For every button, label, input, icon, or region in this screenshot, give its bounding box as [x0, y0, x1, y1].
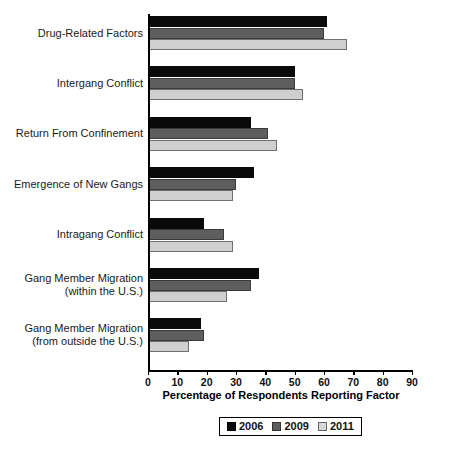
bar-chart: Drug-Related FactorsIntergang ConflictRe…	[0, 0, 458, 454]
category-label-line: Return From Confinement	[0, 127, 143, 140]
x-tick	[412, 370, 413, 375]
bar-2009	[148, 28, 324, 39]
x-tick-label: 70	[341, 376, 365, 388]
bar-2006	[148, 167, 254, 178]
x-tick-label: 60	[312, 376, 336, 388]
bar-2011	[148, 341, 189, 352]
x-tick-label: 90	[400, 376, 424, 388]
category-label-line: (from outside the U.S.)	[0, 335, 143, 348]
x-tick	[148, 370, 149, 375]
bar-2011	[148, 39, 347, 50]
category-label-line: Intragang Conflict	[0, 228, 143, 241]
bar-2009	[148, 330, 204, 341]
bar-2006	[148, 117, 251, 128]
bar-2011	[148, 241, 233, 252]
x-tick	[265, 370, 266, 375]
legend-swatch-2006	[227, 422, 236, 431]
legend-item-2006: 2006	[227, 420, 263, 432]
category-label: Intragang Conflict	[0, 228, 143, 241]
bar-2009	[148, 229, 224, 240]
x-axis-line	[148, 370, 413, 372]
x-axis-title: Percentage of Respondents Reporting Fact…	[148, 389, 414, 401]
bar-2006	[148, 16, 327, 27]
x-tick-label: 0	[136, 376, 160, 388]
category-label-line: Emergence of New Gangs	[0, 178, 143, 191]
bar-2011	[148, 291, 227, 302]
legend-label-2011: 2011	[330, 420, 354, 432]
x-tick	[236, 370, 237, 375]
x-tick-label: 50	[283, 376, 307, 388]
bar-2006	[148, 318, 201, 329]
category-label-line: Drug-Related Factors	[0, 27, 143, 40]
x-tick	[383, 370, 384, 375]
x-tick-label: 20	[195, 376, 219, 388]
x-tick-label: 80	[371, 376, 395, 388]
bar-2009	[148, 179, 236, 190]
bar-2011	[148, 89, 303, 100]
x-tick	[295, 370, 296, 375]
bar-2006	[148, 66, 295, 77]
bar-2006	[148, 218, 204, 229]
bar-2009	[148, 280, 251, 291]
value-axis-line	[148, 14, 150, 371]
category-label: Drug-Related Factors	[0, 27, 143, 40]
category-label-line: (within the U.S.)	[0, 285, 143, 298]
legend-item-2009: 2009	[272, 420, 308, 432]
legend-label-2009: 2009	[284, 420, 308, 432]
plot-area	[148, 14, 412, 369]
category-label-line: Gang Member Migration	[0, 272, 143, 285]
x-tick	[207, 370, 208, 375]
x-tick-label: 10	[165, 376, 189, 388]
bar-2009	[148, 78, 295, 89]
legend-label-2006: 2006	[239, 420, 263, 432]
bar-2009	[148, 128, 268, 139]
x-tick-label: 40	[253, 376, 277, 388]
x-tick	[353, 370, 354, 375]
category-label: Gang Member Migration(within the U.S.)	[0, 272, 143, 298]
category-label: Emergence of New Gangs	[0, 178, 143, 191]
legend-swatch-2011	[318, 422, 327, 431]
bar-2006	[148, 268, 259, 279]
legend-swatch-2009	[272, 422, 281, 431]
bar-2011	[148, 140, 277, 151]
chart-legend: 2006 2009 2011	[219, 417, 362, 436]
category-label: Intergang Conflict	[0, 77, 143, 90]
category-label-line: Intergang Conflict	[0, 77, 143, 90]
category-label: Gang Member Migration(from outside the U…	[0, 322, 143, 348]
x-tick-label: 30	[224, 376, 248, 388]
category-label-line: Gang Member Migration	[0, 322, 143, 335]
x-tick	[177, 370, 178, 375]
legend-item-2011: 2011	[318, 420, 354, 432]
category-label: Return From Confinement	[0, 127, 143, 140]
bar-2011	[148, 190, 233, 201]
x-tick	[324, 370, 325, 375]
